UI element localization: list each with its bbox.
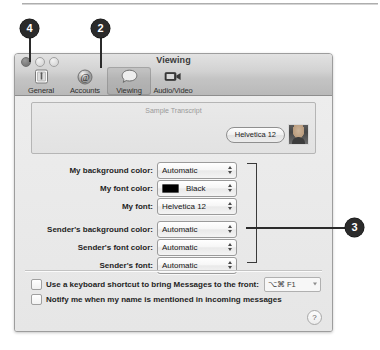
- chevron-updown-icon: [228, 202, 232, 210]
- callout-badge-3: 3: [345, 218, 364, 237]
- section-divider: [25, 270, 322, 272]
- toolbar-label-general: General: [19, 86, 63, 95]
- page-top-rule: [22, 3, 378, 5]
- popup-senders-background-color[interactable]: Automatic: [157, 221, 237, 238]
- viewing-preferences-form: My background color: Automatic My font c…: [15, 162, 332, 275]
- callout-line-3: [246, 227, 347, 229]
- callout-badge-4: 4: [20, 19, 39, 38]
- avatar: [288, 124, 309, 145]
- svg-text:@: @: [80, 71, 89, 82]
- chevron-down-icon: [313, 283, 317, 286]
- transcript-bubble-row: Helvetica 12: [226, 124, 309, 145]
- preferences-toolbar: General @ Accounts: [19, 67, 195, 95]
- window-chrome: Viewing General: [15, 54, 332, 96]
- chevron-updown-icon: [228, 166, 232, 174]
- popup-my-font-color[interactable]: Black: [157, 180, 237, 197]
- checkbox-notify-name-mention[interactable]: [31, 294, 42, 305]
- pref-row-senders-background-color: Sender's background color: Automatic: [15, 221, 332, 237]
- color-swatch-black: [162, 184, 179, 193]
- toolbar-label-viewing: Viewing: [107, 86, 151, 95]
- toolbar-item-viewing[interactable]: Viewing: [107, 67, 151, 95]
- toolbar-label-audio-video: Audio/Video: [151, 86, 195, 95]
- label-notify-name-mention: Notify me when my name is mentioned in i…: [46, 295, 282, 304]
- speech-bubble-icon: [107, 68, 151, 85]
- toolbar-item-audio-video[interactable]: Audio/Video: [151, 67, 195, 95]
- chat-bubble-preview: Helvetica 12: [226, 127, 285, 143]
- label-my-background-color: My background color:: [15, 166, 157, 175]
- checkbox-row-notify-name-mention: Notify me when my name is mentioned in i…: [31, 292, 321, 306]
- transcript-caption: Sample Transcript: [32, 107, 315, 114]
- label-senders-background-color: Sender's background color:: [15, 225, 157, 234]
- chevron-updown-icon: [228, 184, 232, 192]
- toolbar-item-accounts[interactable]: @ Accounts: [63, 67, 107, 95]
- popup-senders-font-color[interactable]: Automatic: [157, 239, 237, 256]
- window-title: Viewing: [15, 55, 332, 65]
- pref-row-my-font-color: My font color: Black: [15, 180, 332, 196]
- help-button[interactable]: ?: [307, 310, 322, 325]
- popup-my-font[interactable]: Helvetica 12: [157, 198, 237, 215]
- callout-line-2: [100, 38, 102, 68]
- preferences-window: Viewing General: [14, 53, 333, 332]
- general-icon: [19, 68, 63, 85]
- value-my-font: Helvetica 12: [158, 202, 206, 211]
- chevron-updown-icon: [228, 243, 232, 251]
- callout-badge-2: 2: [91, 19, 110, 38]
- pref-row-senders-font-color: Sender's font color: Automatic: [15, 239, 332, 255]
- toolbar-item-general[interactable]: General: [19, 67, 63, 95]
- value-my-background-color: Automatic: [158, 166, 198, 175]
- value-my-font-color: Black: [182, 184, 206, 193]
- at-sign-icon: @: [63, 68, 107, 85]
- pref-row-my-background-color: My background color: Automatic: [15, 162, 332, 178]
- sample-transcript-preview: Sample Transcript Helvetica 12: [31, 102, 316, 154]
- toolbar-label-accounts: Accounts: [63, 86, 107, 95]
- label-my-font: My font:: [15, 202, 157, 211]
- label-keyboard-shortcut: Use a keyboard shortcut to bring Message…: [46, 280, 259, 289]
- shortcut-input[interactable]: ⌥⌘ F1: [264, 277, 321, 292]
- checkbox-keyboard-shortcut[interactable]: [31, 279, 42, 290]
- value-senders-background-color: Automatic: [158, 225, 198, 234]
- window-body: Sample Transcript Helvetica 12 My backgr…: [15, 96, 332, 331]
- chevron-updown-icon: [228, 261, 232, 269]
- popup-my-background-color[interactable]: Automatic: [157, 162, 237, 179]
- pref-row-my-font: My font: Helvetica 12: [15, 198, 332, 214]
- video-camera-icon: [151, 68, 195, 85]
- label-senders-font-color: Sender's font color:: [15, 243, 157, 252]
- callout-line-4: [29, 38, 31, 62]
- shortcut-value: ⌥⌘ F1: [265, 280, 296, 289]
- value-senders-font-color: Automatic: [158, 243, 198, 252]
- options-checkbox-group: Use a keyboard shortcut to bring Message…: [31, 277, 321, 307]
- checkbox-row-keyboard-shortcut: Use a keyboard shortcut to bring Message…: [31, 277, 321, 291]
- label-my-font-color: My font color:: [15, 184, 157, 193]
- font-color-group-bracket: [247, 163, 257, 263]
- value-senders-font: Automatic: [158, 261, 198, 270]
- chevron-updown-icon: [228, 225, 232, 233]
- label-senders-font: Sender's font:: [15, 261, 157, 270]
